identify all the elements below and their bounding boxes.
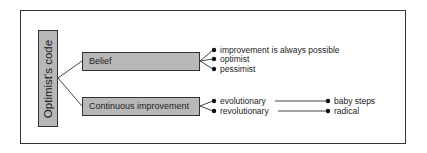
root-label: Optimist's code (42, 39, 54, 117)
leaf-item: evolutionary (220, 96, 266, 106)
branch-label: Continuous improvement (89, 101, 189, 111)
branch-continuous-improvement: Continuous improvement (82, 97, 200, 116)
leaf-item: pessimist (220, 64, 255, 74)
leaf-item: optimist (220, 54, 249, 64)
branch-belief: Belief (82, 52, 200, 71)
root-node: Optimist's code (38, 30, 58, 127)
leaf-item: revolutionary (220, 106, 269, 116)
outcome-item: baby steps (334, 96, 375, 106)
branch-label: Belief (89, 56, 112, 66)
connector-lines (0, 0, 427, 153)
outcome-item: radical (334, 106, 359, 116)
